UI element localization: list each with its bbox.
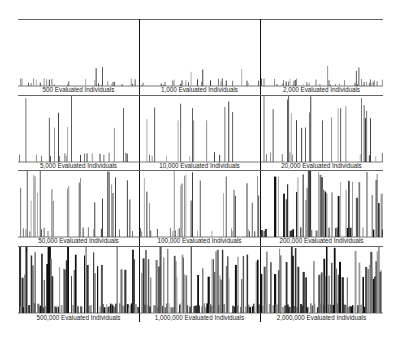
spike-plot xyxy=(139,246,260,314)
panel-label: 200,000 Evaluated Individuals xyxy=(260,237,383,244)
panel-2000: 2,000 Evaluated Individuals xyxy=(260,19,383,95)
spike-plot xyxy=(260,170,383,238)
panel-2000000: 2,000,000 Evaluated Individuals xyxy=(260,246,383,322)
panel-label: 2,000 Evaluated Individuals xyxy=(260,86,383,93)
spike-plot xyxy=(260,95,383,163)
panel-100000: 100,000 Evaluated Individuals xyxy=(139,170,260,246)
panel-label: 5,000 Evaluated Individuals xyxy=(18,162,139,169)
spike-plot xyxy=(139,19,260,87)
panel-500000: 500,000 Evaluated Individuals xyxy=(18,246,139,322)
panel-label: 2,000,000 Evaluated Individuals xyxy=(260,314,383,321)
spike-plot xyxy=(18,95,139,163)
spike-plot xyxy=(18,170,139,238)
panel-500: 500 Evaluated Individuals xyxy=(18,19,139,95)
spike-plot xyxy=(18,246,139,314)
panel-50000: 50,000 Evaluated Individuals xyxy=(18,170,139,246)
panel-label: 100,000 Evaluated Individuals xyxy=(139,237,260,244)
spike-plot xyxy=(139,170,260,238)
panel-5000: 5,000 Evaluated Individuals xyxy=(18,95,139,170)
panel-1000: 1,000 Evaluated Individuals xyxy=(139,19,260,95)
spike-plot xyxy=(260,246,383,314)
panel-label: 20,000 Evaluated Individuals xyxy=(260,162,383,169)
panel-20000: 20,000 Evaluated Individuals xyxy=(260,95,383,170)
spike-plot xyxy=(139,95,260,163)
spike-plot xyxy=(18,19,139,87)
panel-label: 500,000 Evaluated Individuals xyxy=(18,314,139,321)
panel-label: 1,000,000 Evaluated Individuals xyxy=(139,314,260,321)
panel-label: 50,000 Evaluated Individuals xyxy=(18,237,139,244)
panel-label: 500 Evaluated Individuals xyxy=(18,86,139,93)
panel-label: 10,000 Evaluated Individuals xyxy=(139,162,260,169)
panel-label: 1,000 Evaluated Individuals xyxy=(139,86,260,93)
panel-200000: 200,000 Evaluated Individuals xyxy=(260,170,383,246)
panel-1000000: 1,000,000 Evaluated Individuals xyxy=(139,246,260,322)
figure-grid: 500 Evaluated Individuals 1,000 Evaluate… xyxy=(18,19,383,322)
panel-10000: 10,000 Evaluated Individuals xyxy=(139,95,260,170)
spike-plot xyxy=(260,19,383,87)
